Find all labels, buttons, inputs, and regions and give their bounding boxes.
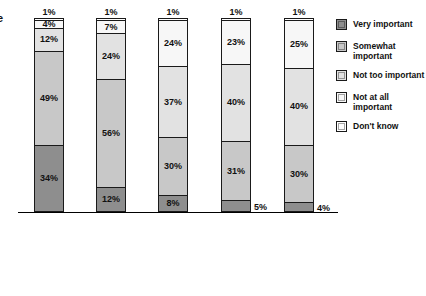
stacked-bar-chart: e 1%4%12%49%34%Under-graduatedegree injo… xyxy=(0,0,426,296)
bar-segment[interactable]: 25% xyxy=(285,21,313,69)
bar-segment[interactable]: 40% xyxy=(285,69,313,146)
segment-value-label-above: 1% xyxy=(142,7,204,17)
legend-swatch-icon xyxy=(336,121,347,132)
segment-value-label-above: 1% xyxy=(205,7,267,17)
bar-segment[interactable]: 34% xyxy=(35,146,63,211)
segment-value-label: 24% xyxy=(164,39,182,48)
segment-value-label-outside: 5% xyxy=(254,202,267,212)
legend-label: Somewhatimportant xyxy=(353,40,396,61)
bar-segment[interactable]: 30% xyxy=(285,146,313,204)
stacked-bar[interactable]: 25%40%30% xyxy=(284,18,314,212)
legend-label-line: Don't know xyxy=(353,121,398,131)
legend-item[interactable]: Very important xyxy=(336,18,426,32)
segment-value-label: 7% xyxy=(104,23,117,32)
chart-legend: Very importantSomewhatimportantNot too i… xyxy=(336,18,426,142)
segment-value-label: 25% xyxy=(290,40,308,49)
x-axis-line xyxy=(18,212,338,213)
bar-segment[interactable]: 24% xyxy=(159,21,187,67)
segment-value-label: 40% xyxy=(290,102,308,111)
bar-segment[interactable] xyxy=(222,201,250,211)
segment-value-label: 8% xyxy=(166,199,179,208)
segment-value-label-above: 1% xyxy=(268,7,330,17)
segment-value-label: 49% xyxy=(40,94,58,103)
stacked-bar[interactable]: 7%24%56%12% xyxy=(96,18,126,212)
legend-label: Don't know xyxy=(353,120,398,131)
bar-segment[interactable]: 56% xyxy=(97,80,125,188)
bar-segment[interactable]: 12% xyxy=(97,188,125,211)
bar-segment[interactable]: 8% xyxy=(159,196,187,211)
segment-value-label: 37% xyxy=(164,98,182,107)
segment-value-label: 30% xyxy=(290,170,308,179)
segment-value-label-above: 1% xyxy=(18,7,80,17)
bar-segment[interactable] xyxy=(285,203,313,211)
bar-segment[interactable]: 31% xyxy=(222,142,250,202)
legend-label: Not too important xyxy=(353,69,424,80)
legend-item[interactable]: Not too important xyxy=(336,69,426,83)
segment-value-label: 34% xyxy=(40,174,58,183)
bar-segment[interactable]: 30% xyxy=(159,138,187,196)
bar-segment[interactable]: 37% xyxy=(159,67,187,138)
segment-value-label: 4% xyxy=(42,20,55,29)
segment-value-label: 23% xyxy=(227,38,245,47)
legend-item[interactable]: Don't know xyxy=(336,120,426,134)
legend-label-line: Very important xyxy=(353,19,413,29)
bar-segment[interactable]: 24% xyxy=(97,34,125,80)
segment-value-label-above: 1% xyxy=(80,7,142,17)
legend-swatch-icon xyxy=(336,92,347,103)
legend-item[interactable]: Not at all important xyxy=(336,91,426,112)
segment-value-label-outside: 4% xyxy=(317,203,330,213)
legend-item[interactable]: Somewhatimportant xyxy=(336,40,426,61)
bar-segment[interactable]: 4% xyxy=(35,21,63,29)
segment-value-label: 30% xyxy=(164,162,182,171)
legend-label-line: Not too important xyxy=(353,70,424,80)
plot-area: 1%4%12%49%34%Under-graduatedegree injour… xyxy=(0,0,340,296)
legend-label-line: important xyxy=(353,51,396,61)
legend-swatch-icon xyxy=(336,19,347,30)
segment-value-label: 24% xyxy=(102,52,120,61)
bar-segment[interactable]: 12% xyxy=(35,29,63,52)
segment-value-label: 56% xyxy=(102,129,120,138)
bar-segment[interactable]: 40% xyxy=(222,65,250,142)
stacked-bar[interactable]: 23%40%31% xyxy=(221,18,251,212)
legend-label: Very important xyxy=(353,18,413,29)
segment-value-label: 12% xyxy=(40,35,58,44)
bar-segment[interactable]: 23% xyxy=(222,21,250,65)
bar-segment[interactable]: 49% xyxy=(35,52,63,146)
bar-segment[interactable]: 7% xyxy=(97,21,125,34)
stacked-bar[interactable]: 24%37%30%8% xyxy=(158,18,188,212)
legend-swatch-icon xyxy=(336,41,347,52)
legend-label-line: Not at all important xyxy=(353,92,426,112)
legend-label: Not at all important xyxy=(353,91,426,112)
legend-swatch-icon xyxy=(336,70,347,81)
legend-label-line: Somewhat xyxy=(353,41,396,51)
stacked-bar[interactable]: 4%12%49%34% xyxy=(34,18,64,212)
segment-value-label: 40% xyxy=(227,98,245,107)
segment-value-label: 31% xyxy=(227,167,245,176)
segment-value-label: 12% xyxy=(102,195,120,204)
